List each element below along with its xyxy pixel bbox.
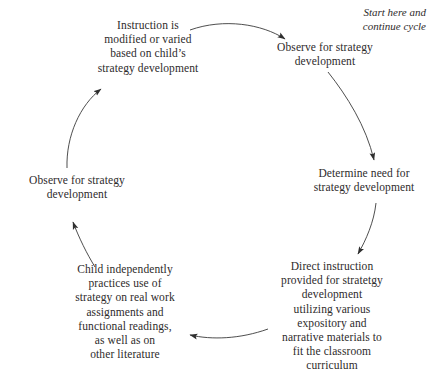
node-observe-for-strategy-development-top: Observe for strategy development bbox=[254, 40, 396, 68]
node-determine-need: Determine need for strategy development bbox=[296, 166, 432, 194]
node-child-practices: Child independently practices use of str… bbox=[54, 262, 196, 361]
diagram-canvas: Start here and continue cycle Instructio… bbox=[0, 0, 432, 377]
node-observe-for-strategy-development-left: Observe for strategy development bbox=[4, 173, 150, 201]
edge-determine-to-direct bbox=[358, 203, 376, 254]
node-instruction-modified: Instruction is modified or varied based … bbox=[78, 18, 218, 75]
edge-observe-top-to-determine bbox=[328, 72, 374, 160]
node-direct-instruction: Direct instruction provided for stratetg… bbox=[256, 259, 408, 373]
edge-child-to-observe-left bbox=[73, 222, 95, 267]
start-here-annotation: Start here and continue cycle bbox=[312, 6, 426, 33]
edge-observe-left-to-instruction bbox=[67, 89, 101, 168]
